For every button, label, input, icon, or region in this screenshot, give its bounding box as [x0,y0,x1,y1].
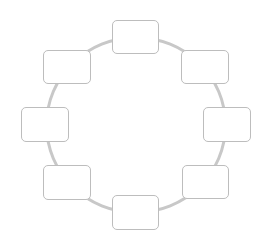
cycle-node-right [203,107,251,142]
cycle-node-lower-right [182,165,229,199]
cycle-node-left [21,107,69,142]
cycle-diagram [0,0,272,245]
cycle-node-lower-left [43,165,91,200]
cycle-node-bottom [112,195,159,230]
cycle-node-top [112,20,159,54]
cycle-node-upper-right [181,50,229,84]
cycle-node-upper-left [43,50,91,84]
